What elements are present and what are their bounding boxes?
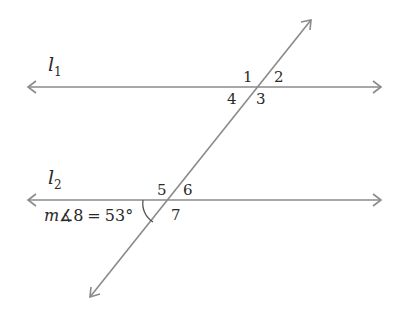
angle-5-label: 5 — [157, 181, 167, 199]
transversal — [90, 20, 311, 297]
line-l2-label: l2 — [48, 166, 62, 192]
angle-2-label: 2 — [274, 68, 284, 86]
angle-8-measure: m∡8=53° — [44, 206, 133, 225]
angle-1-label: 1 — [243, 68, 253, 86]
line-l2 — [28, 194, 381, 206]
line-l1-label: l1 — [48, 53, 62, 79]
angle-4-label: 4 — [227, 90, 237, 108]
line-l1 — [28, 81, 381, 93]
angle-7-label: 7 — [171, 206, 181, 224]
parallel-lines-diagram: l1 l2 1 2 3 4 5 6 7 m∡8=53° — [0, 0, 410, 321]
angle-6-label: 6 — [183, 181, 193, 199]
angle-3-label: 3 — [256, 90, 266, 108]
